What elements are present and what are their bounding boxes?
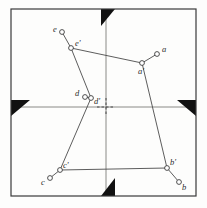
point-label-a: a [162, 45, 166, 54]
point-marker-b [177, 180, 182, 185]
point-marker-e [60, 30, 65, 35]
point-marker-cp [58, 168, 63, 173]
point-label-e: e [53, 25, 57, 34]
point-marker-ep [69, 46, 74, 51]
point-label-ep: e' [75, 39, 81, 48]
point-marker-c [48, 176, 53, 181]
point-marker-a [155, 52, 160, 57]
diagram-canvas [0, 0, 207, 208]
measured-pentagon [60, 48, 167, 170]
point-label-bp: b' [170, 158, 176, 167]
point-label-cp: c' [63, 161, 69, 170]
point-label-c: c [41, 178, 45, 187]
point-marker-ap [140, 61, 145, 66]
top-center-fiducial [101, 9, 115, 26]
right-center-fiducial [177, 100, 196, 116]
point-label-d: d [75, 89, 79, 98]
point-marker-d [83, 95, 88, 100]
point-label-dp: d' [94, 97, 100, 106]
point-label-b: b [182, 183, 186, 192]
bottom-center-fiducial [101, 178, 115, 196]
point-marker-bp [165, 166, 170, 171]
point-marker-dp [89, 96, 94, 101]
left-center-fiducial [11, 100, 30, 116]
distortion-diagram: aa'bb'cc'dd'ee' [0, 0, 207, 208]
point-label-ap: a' [138, 67, 144, 76]
